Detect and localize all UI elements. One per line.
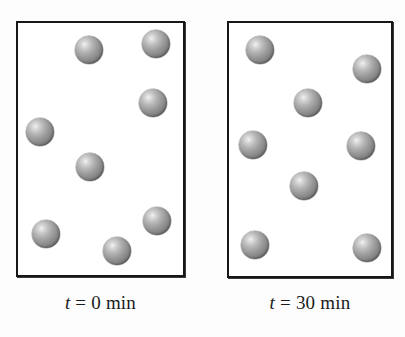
time-value-right: 30 — [296, 292, 315, 313]
equals-glyph-right: = — [280, 292, 291, 313]
particle-sphere — [103, 237, 131, 265]
particle-sphere — [239, 131, 267, 159]
diffusion-figure: t = 0 min t = 30 min — [0, 0, 405, 337]
particle-sphere — [294, 89, 322, 117]
equals-glyph-left: = — [75, 292, 86, 313]
time-unit-right: min — [320, 292, 350, 313]
panel-label-left: t = 0 min — [16, 292, 185, 314]
particle-sphere — [353, 55, 381, 83]
particle-sphere — [241, 231, 269, 259]
particle-sphere — [32, 220, 60, 248]
particle-sphere — [290, 172, 318, 200]
particle-sphere — [143, 207, 171, 235]
particle-sphere — [353, 234, 381, 262]
time-unit-left: min — [106, 292, 136, 313]
particle-sphere — [75, 36, 103, 64]
particle-sphere — [139, 89, 167, 117]
particle-sphere — [76, 153, 104, 181]
particle-sphere — [246, 36, 274, 64]
panel-label-right: t = 30 min — [227, 292, 393, 314]
particle-sphere — [347, 132, 375, 160]
particle-sphere — [26, 118, 54, 146]
time-value-left: 0 — [91, 292, 101, 313]
particle-sphere — [142, 30, 170, 58]
